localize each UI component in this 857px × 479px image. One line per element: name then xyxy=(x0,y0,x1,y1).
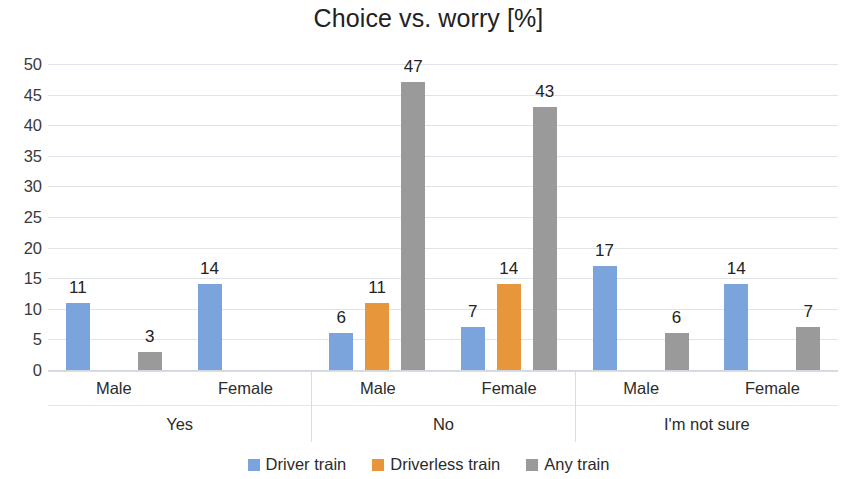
chart-container: Choice vs. worry [%] 5045403530252015105… xyxy=(0,0,857,479)
y-axis-tick-label: 0 xyxy=(0,362,42,379)
category-group-label: No xyxy=(312,406,574,442)
y-axis-tick-label: 15 xyxy=(0,270,42,287)
category-subgroup-label: Male xyxy=(312,379,443,398)
y-axis: 50454035302520151050 xyxy=(0,64,42,370)
bar-value-label: 14 xyxy=(710,260,762,277)
y-axis-tick-label: 35 xyxy=(0,148,42,165)
bar-any[interactable] xyxy=(796,327,820,370)
bar-any[interactable] xyxy=(665,333,689,370)
gridline xyxy=(48,125,838,126)
y-axis-tick-label: 30 xyxy=(0,178,42,195)
y-axis-tick-label: 40 xyxy=(0,117,42,134)
bar-driver[interactable] xyxy=(593,266,617,370)
bar-driver[interactable] xyxy=(461,327,485,370)
gridline xyxy=(48,186,838,187)
y-axis-tick-label: 20 xyxy=(0,239,42,256)
bar-any[interactable] xyxy=(401,82,425,370)
gridline xyxy=(48,64,838,65)
bar-value-label: 7 xyxy=(447,303,499,320)
bar-value-label: 14 xyxy=(184,260,236,277)
legend-item-driverless[interactable]: Driverless train xyxy=(372,455,500,474)
y-axis-tick-label: 50 xyxy=(0,56,42,73)
category-subgroup-label: Male xyxy=(48,379,180,398)
bar-any[interactable] xyxy=(533,107,557,370)
bar-value-label: 47 xyxy=(387,58,439,75)
category-axis: MaleFemaleYesMaleFemaleNoMaleFemaleI'm n… xyxy=(48,371,838,442)
category-group-label: I'm not sure xyxy=(576,406,838,442)
y-axis-tick-label: 45 xyxy=(0,86,42,103)
bar-value-label: 6 xyxy=(315,309,367,326)
bar-value-label: 11 xyxy=(52,279,104,296)
bar-value-label: 11 xyxy=(351,279,403,296)
category-group: MaleFemaleNo xyxy=(311,372,574,442)
category-group: MaleFemaleYes xyxy=(48,372,311,442)
gridline xyxy=(48,248,838,249)
y-axis-tick-label: 5 xyxy=(0,331,42,348)
gridline xyxy=(48,278,838,279)
category-subgroup-label: Female xyxy=(180,379,312,398)
gridline xyxy=(48,309,838,310)
bar-driver[interactable] xyxy=(724,284,748,370)
category-subgroup-label: Female xyxy=(707,379,838,398)
bar-driverless[interactable] xyxy=(365,303,389,370)
legend-swatch-icon xyxy=(372,459,384,471)
bar-value-label: 43 xyxy=(519,83,571,100)
category-subgroup-label: Female xyxy=(444,379,575,398)
legend-swatch-icon xyxy=(526,459,538,471)
category-group: MaleFemaleI'm not sure xyxy=(575,372,838,442)
bar-value-label: 14 xyxy=(483,260,535,277)
plot-area: 113146114771443176147 xyxy=(48,64,838,370)
y-axis-tick-label: 25 xyxy=(0,209,42,226)
legend-label: Any train xyxy=(544,455,609,474)
bar-value-label: 6 xyxy=(651,309,703,326)
y-axis-tick-label: 10 xyxy=(0,301,42,318)
legend-item-any[interactable]: Any train xyxy=(526,455,609,474)
legend-swatch-icon xyxy=(248,459,260,471)
bar-any[interactable] xyxy=(138,352,162,370)
bar-driver[interactable] xyxy=(198,284,222,370)
category-group-label: Yes xyxy=(48,406,311,442)
legend-item-driver[interactable]: Driver train xyxy=(248,455,347,474)
legend-label: Driver train xyxy=(266,455,347,474)
bar-value-label: 3 xyxy=(124,328,176,345)
bar-driverless[interactable] xyxy=(497,284,521,370)
chart-legend: Driver trainDriverless trainAny train xyxy=(0,455,857,474)
bar-driver[interactable] xyxy=(329,333,353,370)
gridline xyxy=(48,95,838,96)
bar-value-label: 17 xyxy=(579,242,631,259)
gridline xyxy=(48,217,838,218)
chart-title: Choice vs. worry [%] xyxy=(0,4,857,33)
category-subgroup-row: MaleFemale xyxy=(312,372,574,406)
category-subgroup-row: MaleFemale xyxy=(576,372,838,406)
legend-label: Driverless train xyxy=(390,455,500,474)
category-subgroup-row: MaleFemale xyxy=(48,372,311,406)
category-subgroup-label: Male xyxy=(576,379,707,398)
bar-driver[interactable] xyxy=(66,303,90,370)
gridline xyxy=(48,156,838,157)
bar-value-label: 7 xyxy=(782,303,834,320)
